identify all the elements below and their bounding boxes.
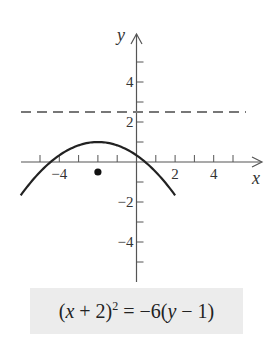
y-tick-label: 4: [126, 74, 134, 90]
x-tick-label: 4: [210, 166, 218, 182]
equation-text: (x + 2)2 = −6(y − 1): [59, 299, 215, 323]
x-axis-label: x: [251, 168, 260, 188]
parabola-plot: −42442−2−4xy: [0, 0, 272, 290]
focus-point: [94, 168, 101, 175]
y-tick-label: −4: [118, 234, 134, 250]
y-tick-label: −2: [118, 194, 134, 210]
equation-box: (x + 2)2 = −6(y − 1): [30, 288, 243, 334]
y-axis-label: y: [115, 25, 125, 45]
x-tick-label: −4: [51, 166, 67, 182]
x-tick-label: 2: [171, 166, 179, 182]
y-tick-label: 2: [126, 114, 134, 130]
